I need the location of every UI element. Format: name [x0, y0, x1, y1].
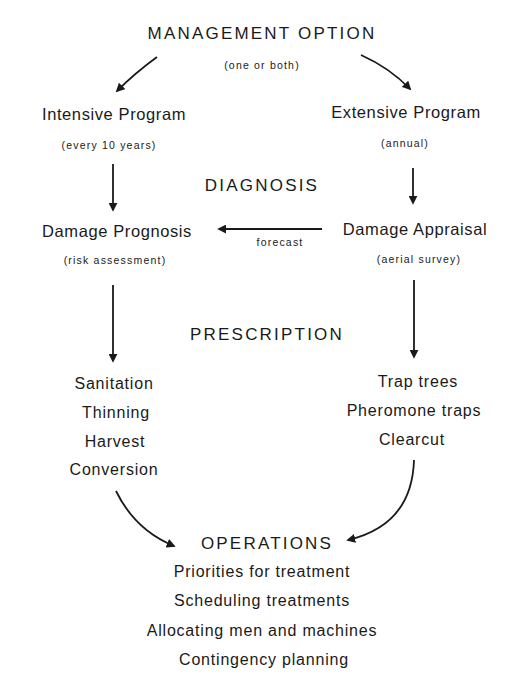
management-option-note: (one or both): [224, 60, 300, 71]
arrow-extensive-to-operations: [348, 460, 414, 540]
operations-item: Allocating men and machines: [147, 623, 378, 639]
arrow-intensive-to-operations: [116, 491, 174, 546]
prescription-intensive-item: Thinning: [82, 405, 150, 421]
extensive-program-note: (annual): [381, 138, 429, 149]
operations-item: Contingency planning: [179, 652, 349, 668]
operations-stage-label: OPERATIONS: [201, 535, 333, 552]
damage-appraisal-label: Damage Appraisal: [343, 221, 487, 238]
intensive-program-note: (every 10 years): [61, 140, 156, 151]
operations-item: Priorities for treatment: [174, 564, 351, 580]
intensive-program-label: Intensive Program: [42, 106, 186, 123]
prescription-intensive-item: Harvest: [85, 434, 146, 450]
prescription-extensive-item: Clearcut: [379, 432, 445, 448]
diagnosis-stage-label: DIAGNOSIS: [205, 177, 319, 194]
management-option-title: MANAGEMENT OPTION: [148, 25, 377, 42]
arrow-to-extensive: [361, 55, 410, 89]
damage-prognosis-note: (risk assessment): [64, 255, 167, 266]
arrow-to-intensive: [117, 57, 157, 91]
operations-item: Scheduling treatments: [174, 593, 350, 609]
prescription-stage-label: PRESCRIPTION: [190, 326, 344, 343]
forecast-link-label: forecast: [257, 237, 304, 248]
prescription-extensive-item: Trap trees: [378, 374, 458, 390]
damage-appraisal-note: (aerial survey): [377, 254, 462, 265]
prescription-extensive-item: Pheromone traps: [347, 403, 482, 419]
prescription-intensive-item: Sanitation: [74, 376, 153, 392]
prescription-intensive-item: Conversion: [70, 462, 159, 478]
extensive-program-label: Extensive Program: [331, 104, 481, 121]
damage-prognosis-label: Damage Prognosis: [42, 223, 192, 240]
